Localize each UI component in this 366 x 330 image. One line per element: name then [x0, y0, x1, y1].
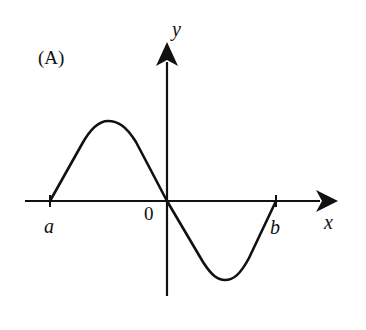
point-a-label: a — [44, 215, 54, 237]
x-axis — [25, 190, 338, 212]
origin-label: 0 — [144, 203, 154, 224]
x-axis-label: x — [323, 211, 333, 233]
panel-label: (A) — [38, 47, 64, 69]
y-axis — [156, 42, 178, 296]
y-axis-label: y — [170, 18, 181, 41]
point-b-label: b — [270, 216, 280, 238]
function-graph-figure: (A) y x 0 a b — [0, 0, 366, 330]
